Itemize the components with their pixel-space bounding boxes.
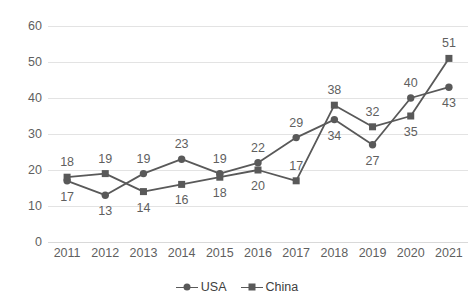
data-label-usa-2015: 19 <box>213 152 227 165</box>
data-point-china-2012 <box>102 170 109 177</box>
data-label-china-2013: 14 <box>137 201 151 214</box>
data-point-china-2013 <box>140 188 147 195</box>
data-label-china-2012: 19 <box>98 152 112 165</box>
chart-legend: USAChina <box>0 277 474 297</box>
data-point-usa-2013 <box>140 170 147 177</box>
legend-item-usa[interactable]: USA <box>176 281 227 294</box>
data-label-usa-2018: 34 <box>327 129 341 142</box>
data-label-usa-2017: 29 <box>289 116 303 129</box>
x-tick-label: 2016 <box>244 247 272 260</box>
data-point-china-2021 <box>445 55 452 62</box>
data-label-usa-2021: 43 <box>442 97 456 110</box>
x-tick-label: 2020 <box>397 247 425 260</box>
data-label-china-2014: 16 <box>175 194 189 207</box>
data-label-usa-2011: 17 <box>60 191 74 204</box>
data-point-usa-2019 <box>369 141 376 148</box>
legend-marker-square-icon <box>241 282 263 292</box>
x-tick-label: 2011 <box>54 247 81 260</box>
x-tick-label: 2013 <box>130 247 158 260</box>
y-axis: 0102030405060 <box>0 26 42 242</box>
y-tick-label: 50 <box>2 56 42 69</box>
gridline-0 <box>48 242 468 243</box>
line-chart: 0102030405060 17131923192229342740431819… <box>0 0 474 305</box>
data-label-china-2018: 38 <box>327 84 341 97</box>
y-tick-label: 60 <box>2 20 42 33</box>
data-point-usa-2017 <box>292 134 299 141</box>
x-tick-label: 2014 <box>168 247 196 260</box>
legend-item-china[interactable]: China <box>241 281 299 294</box>
data-point-usa-2012 <box>102 192 109 199</box>
data-label-china-2021: 51 <box>442 37 456 50</box>
legend-label: China <box>266 281 299 294</box>
data-label-china-2017: 17 <box>289 160 303 173</box>
data-point-china-2016 <box>255 167 262 174</box>
data-label-usa-2019: 27 <box>366 155 380 168</box>
data-point-usa-2018 <box>331 116 338 123</box>
x-tick-label: 2018 <box>320 247 348 260</box>
data-label-china-2015: 18 <box>213 187 227 200</box>
x-tick-label: 2012 <box>91 247 119 260</box>
data-label-usa-2016: 22 <box>251 142 265 155</box>
data-label-china-2019: 32 <box>366 106 380 119</box>
y-tick-label: 20 <box>2 164 42 177</box>
x-tick-label: 2017 <box>282 247 310 260</box>
x-tick-label: 2019 <box>359 247 387 260</box>
plot-area: 1713192319222934274043181914161820173832… <box>48 26 468 242</box>
data-label-usa-2013: 19 <box>137 152 151 165</box>
data-label-usa-2012: 13 <box>98 205 112 218</box>
data-point-china-2019 <box>369 123 376 130</box>
data-label-usa-2020: 40 <box>404 77 418 90</box>
x-tick-label: 2021 <box>435 247 463 260</box>
y-tick-label: 30 <box>2 128 42 141</box>
data-point-usa-2020 <box>407 94 414 101</box>
data-point-china-2015 <box>216 174 223 181</box>
data-point-china-2014 <box>178 181 185 188</box>
legend-marker-circle-icon <box>176 282 198 292</box>
legend-label: USA <box>201 281 227 294</box>
x-axis: 2011201220132014201520162017201820192020… <box>48 247 468 265</box>
data-point-usa-2014 <box>178 156 185 163</box>
data-label-china-2020: 35 <box>404 126 418 139</box>
data-label-usa-2014: 23 <box>175 138 189 151</box>
data-point-china-2018 <box>331 102 338 109</box>
data-point-usa-2016 <box>254 159 261 166</box>
y-tick-label: 0 <box>2 236 42 249</box>
data-label-china-2016: 20 <box>251 180 265 193</box>
x-tick-label: 2015 <box>206 247 234 260</box>
data-point-china-2011 <box>64 174 71 181</box>
y-tick-label: 40 <box>2 92 42 105</box>
y-tick-label: 10 <box>2 200 42 213</box>
data-label-china-2011: 18 <box>60 156 74 169</box>
data-point-china-2020 <box>407 113 414 120</box>
data-point-china-2017 <box>293 177 300 184</box>
data-point-usa-2021 <box>445 84 452 91</box>
